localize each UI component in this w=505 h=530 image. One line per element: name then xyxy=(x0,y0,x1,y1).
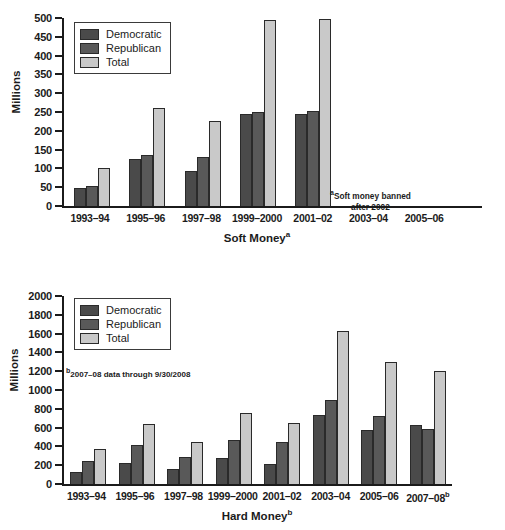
y-axis-tick xyxy=(55,167,62,169)
x-axis-title-hard-money: Hard Moneyb xyxy=(62,508,452,522)
legend-label-democratic: Democratic xyxy=(106,304,162,316)
bar-democratic xyxy=(167,469,179,484)
y-axis-tick-label: 1800 xyxy=(28,309,52,321)
annotation-hard-money-footnote: b2007–08 data through 9/30/2008 xyxy=(66,366,190,380)
bar-democratic xyxy=(119,463,131,484)
y-axis-tick-label: 450 xyxy=(34,31,52,43)
bar-democratic xyxy=(295,114,307,206)
y-axis-tick xyxy=(55,205,62,207)
y-axis-tick xyxy=(55,149,62,151)
bar-total xyxy=(240,413,252,484)
y-axis-tick xyxy=(55,408,62,410)
y-axis-tick-label: 400 xyxy=(34,50,52,62)
bar-group xyxy=(175,18,230,206)
annotation-soft-money-banned: aSoft money banned after 2002 xyxy=(330,188,411,213)
y-axis-tick-label: 250 xyxy=(34,106,52,118)
x-axis-title-sup-bottom: b xyxy=(287,508,292,517)
bar-group xyxy=(397,18,452,206)
bar-democratic xyxy=(185,171,197,206)
legend-item-republican: Republican xyxy=(80,41,162,55)
bar-group xyxy=(404,296,453,484)
bar-total xyxy=(319,19,331,206)
x-axis-title-text-top: Soft Money xyxy=(224,232,286,244)
bar-total xyxy=(385,362,397,484)
bar-republican xyxy=(179,457,191,484)
x-axis-tick-label: 2003–04 xyxy=(306,490,355,504)
legend-swatch-republican-icon xyxy=(80,319,99,330)
bar-group xyxy=(341,18,396,206)
y-axis-tick xyxy=(55,370,62,372)
legend-label-republican: Republican xyxy=(106,318,161,330)
legend-hard-money: Democratic Republican Total xyxy=(74,298,171,350)
x-axis-title-text-bottom: Hard Money xyxy=(222,510,288,522)
y-axis-tick xyxy=(55,314,62,316)
bar-republican xyxy=(141,155,153,207)
y-axis-tick-label: 0 xyxy=(46,200,52,212)
x-axis-tick-label: 1995–96 xyxy=(118,212,174,224)
bar-total xyxy=(98,168,110,206)
bar-democratic xyxy=(129,159,141,206)
legend-soft-money: Democratic Republican Total xyxy=(74,22,171,74)
y-axis-tick-label: 200 xyxy=(34,125,52,137)
y-axis-title-bottom: Millions xyxy=(8,340,20,400)
y-axis-tick-label: 200 xyxy=(34,459,52,471)
y-axis-tick-label: 150 xyxy=(34,144,52,156)
bar-republican xyxy=(276,442,288,484)
y-axis-tick xyxy=(55,464,62,466)
bar-group xyxy=(258,296,307,484)
x-axis-tick-label: 1995–96 xyxy=(111,490,160,504)
x-axis-tick-label: 2001–02 xyxy=(285,212,341,224)
legend-swatch-democratic-icon xyxy=(80,305,99,316)
bar-democratic xyxy=(264,464,276,484)
bar-total xyxy=(153,108,165,207)
legend-label-total: Total xyxy=(106,332,129,344)
legend-item-total: Total xyxy=(80,55,162,69)
y-axis-tick-label: 100 xyxy=(34,162,52,174)
bar-republican xyxy=(325,400,337,484)
y-axis-tick xyxy=(55,295,62,297)
bar-group xyxy=(210,296,259,484)
bar-republican xyxy=(252,112,264,206)
bar-total xyxy=(191,442,203,484)
legend-swatch-republican-icon xyxy=(80,43,99,54)
legend-label-total: Total xyxy=(106,56,129,68)
y-axis-tick xyxy=(55,36,62,38)
y-axis-tick xyxy=(55,427,62,429)
y-axis-tick-label: 400 xyxy=(34,440,52,452)
y-axis-tick-label: 2000 xyxy=(28,290,52,302)
y-axis-tick xyxy=(55,483,62,485)
bar-total xyxy=(143,424,155,484)
y-axis-tick xyxy=(55,73,62,75)
x-axis-line-bottom xyxy=(62,484,452,486)
x-axis-tick-label: 1993–94 xyxy=(62,212,118,224)
x-axis-tick-label: 2005–06 xyxy=(396,212,452,224)
bar-republican xyxy=(422,429,434,484)
x-axis-title-sup-top: a xyxy=(286,230,290,239)
x-axis-tick-label: 2001–02 xyxy=(258,490,307,504)
y-axis-tick xyxy=(55,130,62,132)
y-axis-tick-label: 1000 xyxy=(28,384,52,396)
x-axis-tick-label: 1999–2000 xyxy=(208,490,258,504)
bar-democratic xyxy=(240,114,252,206)
x-axis-tick-label: 2007–08b xyxy=(403,490,452,504)
page-artifact xyxy=(100,508,105,529)
y-axis-tick-label: 50 xyxy=(40,181,52,193)
bar-democratic xyxy=(410,425,422,484)
x-axis-extension-top xyxy=(452,206,482,208)
bar-total xyxy=(434,371,446,484)
y-axis-tick xyxy=(55,186,62,188)
bar-total xyxy=(264,20,276,206)
x-axis-tick-label: 1997–98 xyxy=(173,212,229,224)
bar-republican xyxy=(86,186,98,206)
y-axis-tick-label: 600 xyxy=(34,422,52,434)
y-axis-tick-label: 350 xyxy=(34,68,52,80)
legend-item-total: Total xyxy=(80,331,162,345)
legend-swatch-total-icon xyxy=(80,57,99,68)
y-axis-tick xyxy=(55,333,62,335)
bar-group xyxy=(230,18,285,206)
y-axis-tick xyxy=(55,111,62,113)
y-axis-tick-label: 0 xyxy=(46,478,52,490)
y-axis-tick-label: 500 xyxy=(34,12,52,24)
bar-group xyxy=(307,296,356,484)
bar-total xyxy=(337,331,349,484)
